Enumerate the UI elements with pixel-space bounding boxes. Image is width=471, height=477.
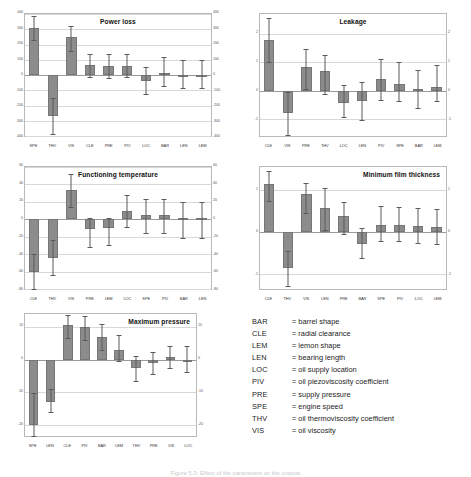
bar-group: [99, 14, 118, 136]
x-tick-label: THV: [278, 291, 297, 306]
y-axis-left: 6040200-20-40-60-80: [8, 166, 24, 290]
error-bar: [399, 62, 400, 101]
error-bar-cap: [162, 233, 167, 234]
y-axis-left: 210-1: [243, 13, 259, 137]
bar-group: [118, 167, 137, 289]
error-bar: [436, 65, 437, 101]
bar-group: [316, 167, 335, 289]
error-bar-cap: [285, 251, 290, 252]
y-tick-label: -1: [447, 118, 463, 122]
error-bar-cap: [143, 94, 148, 95]
y-tick-label: -400: [212, 135, 228, 139]
bar-group: [81, 167, 100, 289]
error-bar: [362, 228, 363, 258]
bar-group: [81, 14, 100, 136]
error-bar-cap: [31, 436, 36, 437]
legend-key: SPE: [252, 401, 292, 413]
error-bar: [33, 393, 34, 436]
legend-definition: = lemon shape: [292, 340, 467, 352]
error-bar-cap: [416, 70, 421, 71]
y-tick-label: 60: [212, 164, 228, 168]
error-bar-cap: [304, 213, 309, 214]
x-tick-label: LOC: [118, 291, 137, 306]
y-tick-label: 200: [212, 42, 228, 46]
figure-root: 4003002001000-100-200-300-40040030020010…: [0, 0, 471, 477]
x-tick-label: LEM: [110, 438, 127, 453]
x-axis-labels: SPELENCLEPIVBARLEMTHVPREVISLOC: [24, 438, 197, 453]
bar-group: [409, 14, 428, 136]
error-bar: [145, 199, 146, 233]
error-bar-cap: [31, 393, 36, 394]
bar-group: [372, 14, 391, 136]
legend-key: LOC: [252, 364, 292, 376]
error-bar-cap: [117, 361, 122, 362]
error-bar: [380, 59, 381, 99]
error-bar-cap: [397, 241, 402, 242]
error-bar-cap: [341, 202, 346, 203]
error-bar-cap: [88, 247, 93, 248]
x-tick-label: LOC: [180, 438, 197, 453]
chart-functioning-temperature: 6040200-20-40-60-806040200-20-40-60-80Fu…: [8, 166, 228, 306]
bar-group: [174, 167, 193, 289]
error-bar-cap: [267, 62, 272, 63]
error-bar: [52, 240, 53, 275]
x-tick-label: BAR: [409, 138, 428, 153]
error-bar: [50, 389, 51, 411]
chart-maximum-pressure: 100-10-20100-10-20Maximum pressureSPELEN…: [8, 313, 213, 453]
error-bar: [325, 188, 326, 230]
bar-group: [372, 167, 391, 289]
error-bar-cap: [285, 286, 290, 287]
error-bar-cap: [32, 254, 37, 255]
x-tick-label: PRE: [80, 291, 99, 306]
y-tick-label: -300: [8, 120, 24, 124]
bar-group: [59, 314, 76, 436]
y-tick-label: 0: [8, 357, 24, 361]
x-tick-label: PIV: [118, 138, 137, 153]
error-bar-cap: [143, 199, 148, 200]
error-bar: [306, 183, 307, 213]
y-tick-label: -20: [8, 235, 24, 239]
y-tick-label: 1: [243, 60, 259, 64]
error-bar-cap: [304, 89, 309, 90]
bar-group: [390, 14, 409, 136]
legend-row: PIV= oil piezoviscosity coefficient: [252, 376, 467, 388]
y-tick-label: -20: [8, 424, 24, 428]
y-tick-label: 20: [212, 200, 228, 204]
plot-area: Minimum film thickness: [259, 166, 447, 290]
chart-leakage: 210-1210-1LeakageCLEVISPRETHVLOCLENPIVSP…: [243, 13, 463, 153]
bar-group: [179, 314, 196, 436]
error-bar-cap: [397, 101, 402, 102]
bar-group: [334, 14, 353, 136]
error-bar: [90, 54, 91, 76]
x-tick-label: PRE: [297, 138, 316, 153]
y-axis-left: 10-1: [243, 166, 259, 290]
x-axis-labels: SPETHVVISCLEPREPIVLOCBARLENLEM: [24, 138, 212, 153]
error-bar-cap: [106, 54, 111, 55]
error-bar-cap: [304, 49, 309, 50]
error-bar-cap: [285, 135, 290, 136]
y-tick-label: -1: [447, 273, 463, 277]
bar-group: [93, 314, 110, 436]
y-tick-label: 2: [447, 31, 463, 35]
y-tick-label: -400: [8, 135, 24, 139]
error-bar-cap: [151, 352, 156, 353]
error-bar-cap: [360, 228, 365, 229]
error-bar-cap: [181, 60, 186, 61]
y-tick-label: -100: [8, 89, 24, 93]
error-bar-cap: [106, 78, 111, 79]
bar-group: [137, 14, 156, 136]
legend-row: THV= oil thermoviscosity coefficient: [252, 413, 467, 425]
error-bar-cap: [117, 335, 122, 336]
bar-group: [192, 167, 211, 289]
error-bar-cap: [50, 98, 55, 99]
error-bar-cap: [267, 201, 272, 202]
x-tick-label: CLE: [24, 291, 43, 306]
error-bar-cap: [65, 315, 70, 316]
error-bar-cap: [69, 26, 74, 27]
x-tick-label: THV: [315, 138, 334, 153]
y-tick-label: 0: [243, 89, 259, 93]
error-bar: [136, 356, 137, 381]
y-tick-label: -80: [212, 288, 228, 292]
error-bar-cap: [434, 101, 439, 102]
bar-group: [110, 314, 127, 436]
